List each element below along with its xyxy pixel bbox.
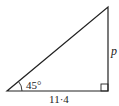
triangle xyxy=(7,7,108,91)
side-label: p xyxy=(110,44,117,58)
angle-arc xyxy=(19,81,23,91)
base-label: 11·4 xyxy=(49,93,69,105)
triangle-diagram: 45° 11·4 p xyxy=(0,0,119,106)
right-angle-marker xyxy=(101,84,108,91)
angle-label: 45° xyxy=(26,79,41,91)
